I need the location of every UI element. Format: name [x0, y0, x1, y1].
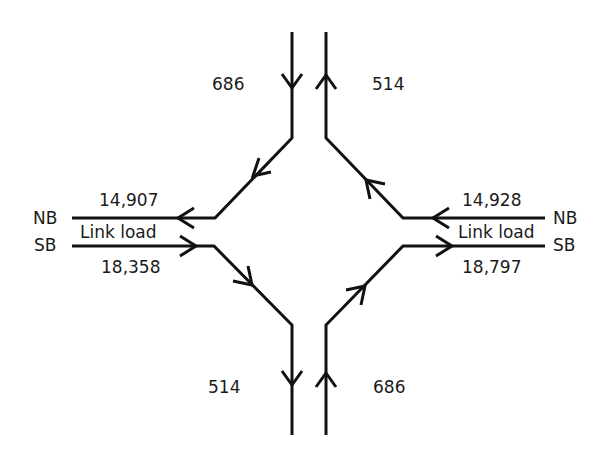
east-sb-label: SB — [553, 237, 575, 254]
ramp-volume-top-right: 514 — [372, 76, 404, 93]
ramp-volume-bottom-right: 686 — [373, 379, 405, 396]
west-sb-label: SB — [34, 237, 56, 254]
west-nb-label: NB — [33, 210, 57, 227]
ramp-volume-bottom-left: 514 — [208, 379, 240, 396]
east-nb-volume: 14,928 — [462, 192, 521, 209]
west-link-load-label: Link load — [80, 224, 157, 241]
east-nb-label: NB — [553, 210, 577, 227]
east-link-load-label: Link load — [458, 224, 535, 241]
east-sb-volume: 18,797 — [462, 259, 521, 276]
ramp-volume-top-left: 686 — [212, 76, 244, 93]
west-nb-volume: 14,907 — [99, 192, 158, 209]
west-sb-volume: 18,358 — [101, 259, 160, 276]
